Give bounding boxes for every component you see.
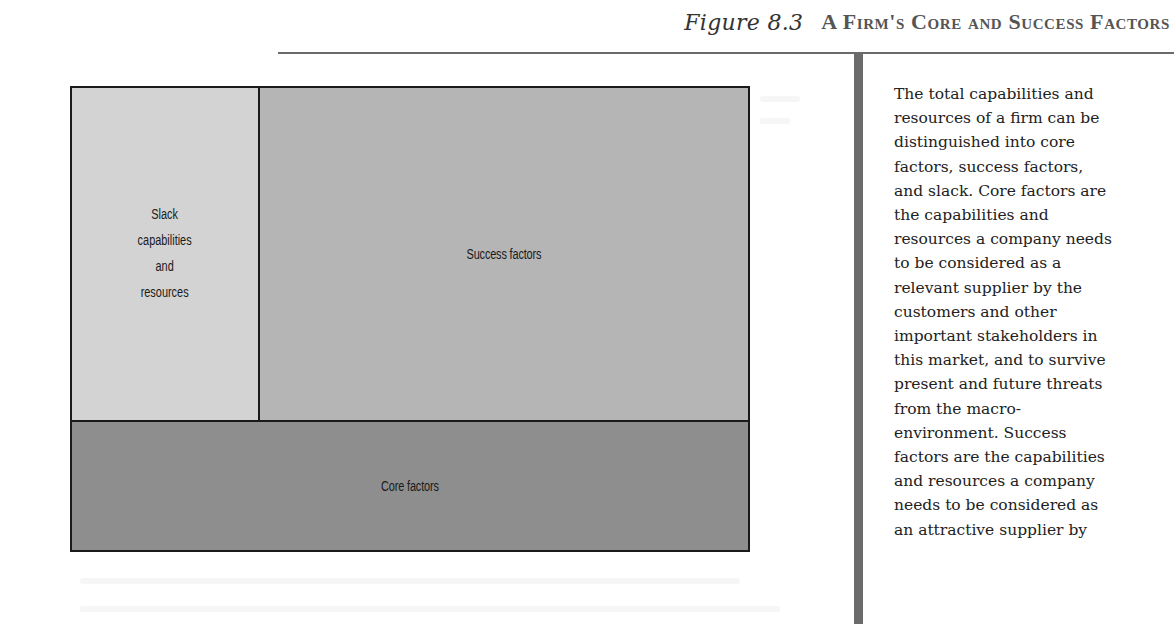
caption-line: to be considered as a [894, 251, 1174, 275]
caption-line: this market, and to survive [894, 348, 1174, 372]
slack-label-line: Slack [152, 201, 179, 227]
caption-line: resources a company needs [894, 227, 1174, 251]
success-factors-region: Success factors [260, 88, 748, 420]
caption-line: needs to be considered as [894, 493, 1174, 517]
bleed-through-line [80, 606, 780, 612]
caption-line: important stakeholders in [894, 324, 1174, 348]
caption-line: customers and other [894, 300, 1174, 324]
core-factors-label: Core factors [381, 473, 439, 499]
capabilities-diagram: Slack capabilities and resources Success… [70, 86, 750, 552]
core-factors-region: Core factors [72, 420, 748, 550]
slack-label: Slack capabilities and resources [138, 201, 192, 305]
caption-line: distinguished into core [894, 130, 1174, 154]
caption-line: resources of a firm can be [894, 106, 1174, 130]
bleed-through-line [760, 96, 800, 102]
caption-line: relevant supplier by the [894, 276, 1174, 300]
bleed-through-line [760, 118, 790, 124]
slack-label-line: resources [141, 279, 189, 305]
caption-line: environment. Success [894, 421, 1174, 445]
slack-label-line: and [156, 253, 174, 279]
success-factors-label: Success factors [467, 241, 542, 267]
figure-title: A Firm's Core and Success Factors [821, 9, 1174, 35]
header-rule [278, 52, 1174, 54]
caption-line: an attractive supplier by [894, 518, 1174, 542]
slack-label-line: capabilities [138, 227, 192, 253]
figure-header: Figure 8.3 A Firm's Core and Success Fac… [684, 0, 1174, 44]
caption-sidebar-bar [854, 52, 863, 624]
caption-line: present and future threats [894, 372, 1174, 396]
bleed-through-line [80, 578, 740, 584]
caption-line: the capabilities and [894, 203, 1174, 227]
caption-line: The total capabilities and [894, 82, 1174, 106]
caption-line: and slack. Core factors are [894, 179, 1174, 203]
figure-label: Figure 8.3 [684, 10, 803, 35]
caption-line: factors are the capabilities [894, 445, 1174, 469]
figure-caption: The total capabilities and resources of … [894, 82, 1174, 542]
caption-line: from the macro- [894, 397, 1174, 421]
slack-region: Slack capabilities and resources [72, 88, 260, 420]
caption-line: and resources a company [894, 469, 1174, 493]
caption-line: factors, success factors, [894, 155, 1174, 179]
